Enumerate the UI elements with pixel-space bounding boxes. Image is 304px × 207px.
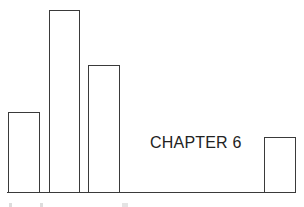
cropped-text-fragment — [122, 203, 128, 207]
decorative-bar-4 — [264, 137, 296, 192]
decorative-bar-1 — [8, 112, 40, 192]
decorative-bar-3 — [88, 65, 120, 192]
cropped-text-fragment — [9, 203, 12, 207]
chapter-heading: CHAPTER 6 — [150, 134, 242, 152]
decorative-bar-2 — [49, 10, 80, 192]
baseline-rule — [7, 192, 296, 193]
cropped-text-fragment — [40, 203, 43, 207]
